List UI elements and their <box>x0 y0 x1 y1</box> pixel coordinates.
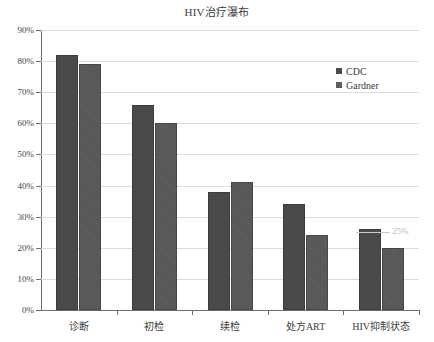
y-axis-label: 80% <box>0 56 34 66</box>
y-axis-label: 40% <box>0 181 34 191</box>
y-axis-label: 30% <box>0 212 34 222</box>
bar-gardner-4[interactable] <box>382 248 404 310</box>
bar-gardner-0[interactable] <box>79 64 101 310</box>
y-axis-tick <box>36 154 41 155</box>
x-axis-label-0: 诊断 <box>69 318 89 333</box>
chart-title: HIV治疗瀑布 <box>0 3 434 19</box>
legend-item-cdc[interactable]: CDC <box>336 64 379 78</box>
bar-cdc-0[interactable] <box>56 55 78 310</box>
chart-container: HIV治疗瀑布 CDCGardner 25% 90%80%70%60%50%40… <box>0 0 434 342</box>
legend-swatch-icon <box>336 82 342 88</box>
y-axis-label: 90% <box>0 25 34 35</box>
y-axis-tick <box>36 123 41 124</box>
x-axis-tick <box>343 310 344 315</box>
y-axis-tick <box>36 61 41 62</box>
gridline <box>41 30 419 31</box>
bar-cdc-2[interactable] <box>208 192 230 310</box>
y-axis-label: 10% <box>0 274 34 284</box>
legend-swatch-icon <box>336 68 342 74</box>
x-axis-tick <box>192 310 193 315</box>
y-axis-tick <box>36 30 41 31</box>
y-axis-label: 20% <box>0 243 34 253</box>
x-axis-label-4: HIV抑制状态 <box>352 318 410 333</box>
bar-gardner-2[interactable] <box>231 182 253 310</box>
y-axis-tick <box>36 217 41 218</box>
x-axis-label-3: 处方ART <box>286 318 325 333</box>
bar-gardner-1[interactable] <box>155 123 177 310</box>
y-axis-tick <box>36 279 41 280</box>
y-axis-tick <box>36 310 41 311</box>
bar-cdc-4[interactable] <box>359 229 381 310</box>
y-axis-tick <box>36 186 41 187</box>
gridline <box>41 61 419 62</box>
chart-legend: CDCGardner <box>336 64 379 92</box>
annotation-25-label: 25% <box>392 226 409 236</box>
annotation-25-leader-line <box>356 232 390 233</box>
x-axis-tick <box>117 310 118 315</box>
bar-cdc-3[interactable] <box>283 204 305 310</box>
x-axis-tick <box>419 310 420 315</box>
x-axis-label-1: 初检 <box>144 318 164 333</box>
y-axis-label: 0% <box>0 305 34 315</box>
y-axis-tick <box>36 248 41 249</box>
x-axis-label-2: 续检 <box>220 318 240 333</box>
legend-label: CDC <box>346 66 367 77</box>
legend-item-gardner[interactable]: Gardner <box>336 78 379 92</box>
bar-gardner-3[interactable] <box>306 235 328 310</box>
gridline <box>41 310 419 311</box>
y-axis-label: 70% <box>0 87 34 97</box>
y-axis-tick <box>36 92 41 93</box>
x-axis-tick <box>268 310 269 315</box>
y-axis-label: 50% <box>0 149 34 159</box>
bar-cdc-1[interactable] <box>132 105 154 310</box>
y-axis-label: 60% <box>0 118 34 128</box>
legend-label: Gardner <box>346 80 379 91</box>
